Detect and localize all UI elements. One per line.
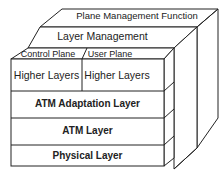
higher-layers-control-label: Higher Layers [11,69,82,81]
higher-layers-user-label: Higher Layers [82,69,152,81]
plane-management-label: Plane Management Function [62,10,212,21]
physical-layer-label: Physical Layer [11,150,164,161]
layers-side [164,48,174,166]
control-plane-label: Control Plane [14,49,82,59]
aal-label: ATM Adaptation Layer [11,98,164,109]
plane-management-side [197,9,218,148]
atm-layer-label: ATM Layer [11,125,164,136]
layer-management-label: Layer Management [40,30,165,42]
user-plane-label: User Plane [84,49,136,59]
layer-management-side [174,27,197,169]
